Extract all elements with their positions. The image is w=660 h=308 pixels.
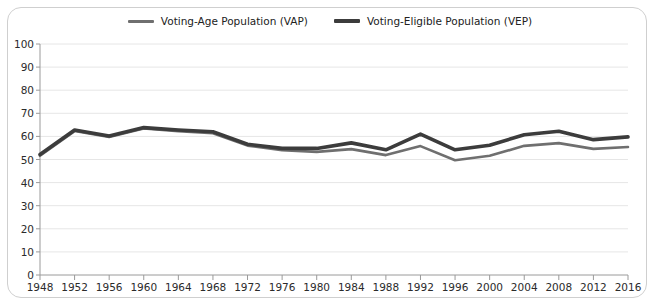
x-axis-tick-label: 2016 <box>608 282 648 293</box>
y-axis-tick-label: 70 <box>0 108 34 119</box>
y-axis-tick-label: 80 <box>0 85 34 96</box>
chart-plot-area: 0102030405060708090100194819521956196019… <box>0 0 660 308</box>
axis-labels: 0102030405060708090100194819521956196019… <box>0 0 660 308</box>
y-axis-tick-label: 100 <box>0 39 34 50</box>
y-axis-tick-label: 90 <box>0 62 34 73</box>
y-axis-tick-label: 30 <box>0 200 34 211</box>
y-axis-tick-label: 50 <box>0 154 34 165</box>
y-axis-tick-label: 10 <box>0 247 34 258</box>
y-axis-tick-label: 40 <box>0 177 34 188</box>
y-axis-tick-label: 60 <box>0 131 34 142</box>
y-axis-tick-label: 0 <box>0 270 34 281</box>
y-axis-tick-label: 20 <box>0 224 34 235</box>
